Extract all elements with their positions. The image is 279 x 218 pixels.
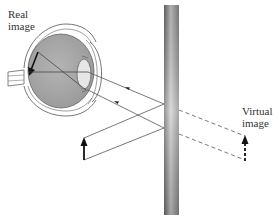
reflected-rays bbox=[88, 72, 164, 128]
eye bbox=[8, 24, 102, 116]
real-image-label: Real image bbox=[8, 8, 35, 32]
virtual-image-label-line1: Virtual bbox=[242, 105, 273, 117]
virtual-image-label: Virtual image bbox=[242, 105, 273, 129]
real-image-label-line2: image bbox=[8, 20, 35, 32]
object-arrow bbox=[81, 137, 88, 160]
diagram-canvas bbox=[0, 0, 279, 218]
virtual-image-arrow bbox=[242, 135, 249, 161]
optic-nerve bbox=[8, 70, 24, 86]
real-image-label-line1: Real bbox=[8, 8, 35, 20]
incident-rays bbox=[84, 104, 164, 160]
virtual-rays bbox=[179, 110, 245, 160]
virtual-image-label-line2: image bbox=[242, 117, 273, 129]
plane-mirror bbox=[164, 5, 179, 215]
